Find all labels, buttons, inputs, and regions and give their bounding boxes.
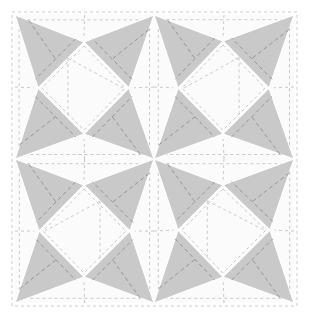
quilt-blocks xyxy=(15,15,294,303)
block-lower-right xyxy=(154,159,294,303)
quilt-pattern xyxy=(0,0,312,317)
block-lower-left xyxy=(15,159,154,303)
block-upper-right xyxy=(154,15,294,159)
block-upper-left xyxy=(15,15,154,159)
